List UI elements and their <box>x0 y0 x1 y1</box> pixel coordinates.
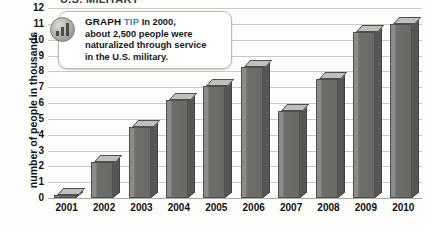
x-tick-label-2002: 2002 <box>85 202 122 214</box>
bar-side-face <box>338 73 345 198</box>
bar-side-face <box>375 26 382 198</box>
bar-side-face <box>151 121 158 198</box>
x-tick-label-2004: 2004 <box>160 202 197 214</box>
bar-front-face <box>241 67 263 198</box>
bar-2004 <box>166 93 188 198</box>
gridline <box>48 198 422 199</box>
bar-front-face <box>166 100 188 198</box>
y-tick-label: 4 <box>22 130 44 140</box>
bar-front-face <box>353 32 375 198</box>
bar-2009 <box>353 25 375 198</box>
graph-tip-line-4: in the U.S. military. <box>85 52 168 62</box>
y-tick-label: 8 <box>22 66 44 76</box>
y-tick-label: 11 <box>22 19 44 29</box>
graph-tip-kicker: TIP <box>124 17 139 27</box>
x-tick-label-2010: 2010 <box>385 202 422 214</box>
x-tick-label-2005: 2005 <box>198 202 235 214</box>
bar-chart-badge-icon <box>50 17 75 42</box>
x-tick-label-2007: 2007 <box>272 202 309 214</box>
bar-front-face <box>203 86 225 198</box>
graph-tip-callout: GRAPH TIP In 2000, about 2,500 people we… <box>58 11 232 69</box>
graph-tip-text: GRAPH TIP In 2000, about 2,500 people we… <box>85 16 225 63</box>
graph-tip-line-1: In 2000, <box>142 17 176 27</box>
cropped-page-title: U.S. MILITARY <box>60 0 260 5</box>
y-tick-label: 7 <box>22 82 44 92</box>
x-tick-label-2008: 2008 <box>310 202 347 214</box>
bar-front-face <box>91 162 113 198</box>
bar-side-face <box>225 80 232 198</box>
x-tick-label-2003: 2003 <box>123 202 160 214</box>
y-tick-label: 9 <box>22 51 44 61</box>
graph-tip-line-3: naturalized through service <box>85 40 206 50</box>
x-tick-label-2009: 2009 <box>347 202 384 214</box>
bar-2005 <box>203 79 225 198</box>
bar-front-face <box>316 79 338 198</box>
bar-2010 <box>390 17 412 198</box>
bar-2007 <box>278 104 300 198</box>
bar-side-face <box>300 105 307 198</box>
y-tick-label: 1 <box>22 177 44 187</box>
y-tick-label: 6 <box>22 98 44 108</box>
chart-page: U.S. MILITARY number of people in thousa… <box>0 0 426 228</box>
x-tick-label-2006: 2006 <box>235 202 272 214</box>
y-tick-label: 12 <box>22 3 44 13</box>
bar-2008 <box>316 72 338 198</box>
graph-tip-heading: GRAPH <box>85 16 121 27</box>
y-tick-label: 0 <box>22 193 44 203</box>
bar-front-face <box>278 111 300 198</box>
bar-front-face <box>129 127 151 198</box>
bar-front-face <box>54 195 76 198</box>
bar-front-face <box>390 24 412 198</box>
y-tick-label: 5 <box>22 114 44 124</box>
bar-2006 <box>241 60 263 198</box>
y-tick-label: 10 <box>22 35 44 45</box>
bar-2002 <box>91 155 113 198</box>
x-tick-label-2001: 2001 <box>48 202 85 214</box>
y-tick-label: 2 <box>22 161 44 171</box>
y-tick-label: 3 <box>22 146 44 156</box>
bar-side-face <box>412 18 419 198</box>
bar-2003 <box>129 120 151 198</box>
bar-side-face <box>113 156 120 198</box>
bar-side-face <box>188 94 195 198</box>
cropped-page-title-text: U.S. MILITARY <box>60 0 260 5</box>
bar-2001 <box>54 188 76 198</box>
bar-side-face <box>263 61 270 198</box>
graph-tip-line-2: about 2,500 people were <box>85 29 192 39</box>
x-axis-labels: 2001200220032004200520062007200820092010 <box>48 202 422 222</box>
